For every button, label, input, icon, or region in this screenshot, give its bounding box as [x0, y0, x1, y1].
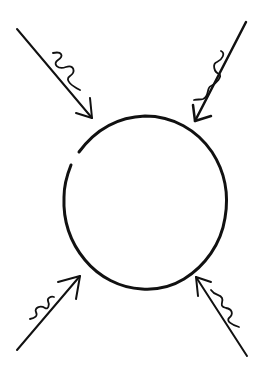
diagram-canvas [0, 0, 262, 377]
